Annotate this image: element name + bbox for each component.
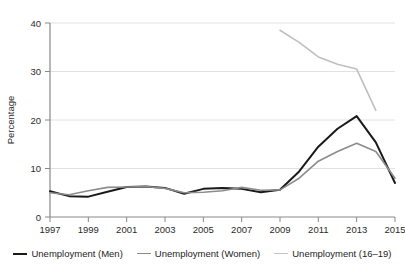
series-line [50,116,395,197]
legend-item[interactable]: Unemployment (Women) [137,248,260,259]
legend-label: Unemployment (Men) [31,248,122,259]
y-axis-title: Percentage [5,96,16,145]
chart-legend: Unemployment (Men)Unemployment (Women)Un… [0,248,405,259]
svg-text:30: 30 [30,66,41,77]
svg-text:2013: 2013 [346,224,367,235]
x-axis-ticks: 1997199920012003200520072009201120132015 [39,217,405,235]
svg-text:2007: 2007 [231,224,252,235]
svg-text:2001: 2001 [116,224,137,235]
chart-canvas: 010203040 199719992001200320052007200920… [0,8,405,238]
series-line [280,30,376,110]
svg-text:2011: 2011 [308,224,328,235]
gridlines [50,23,395,169]
svg-text:1999: 1999 [78,224,99,235]
svg-text:2015: 2015 [384,224,405,235]
svg-text:40: 40 [30,18,41,29]
svg-text:20: 20 [30,115,41,126]
series-lines [50,30,395,196]
svg-text:2009: 2009 [269,224,290,235]
svg-text:0: 0 [36,212,41,223]
unemployment-line-chart: 010203040 199719992001200320052007200920… [0,0,405,265]
legend-line-swatch [13,253,27,255]
legend-line-swatch [274,253,288,254]
legend-label: Unemployment (16–19) [292,248,391,259]
svg-text:10: 10 [30,163,41,174]
legend-item[interactable]: Unemployment (Men) [13,248,122,259]
legend-label: Unemployment (Women) [155,248,260,259]
svg-text:1997: 1997 [39,224,60,235]
legend-item[interactable]: Unemployment (16–19) [274,248,391,259]
y-axis-ticks: 010203040 [30,18,50,223]
legend-line-swatch [137,253,151,254]
svg-text:2003: 2003 [154,224,175,235]
plot-area: 010203040 199719992001200320052007200920… [0,8,405,238]
svg-text:2005: 2005 [193,224,214,235]
